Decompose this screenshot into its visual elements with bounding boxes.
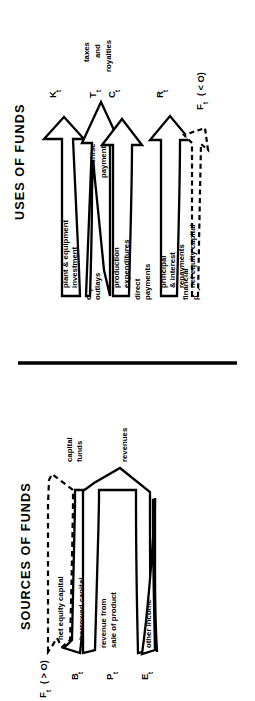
symbol-R-subscript: t <box>162 89 169 92</box>
figure-canvas: USES OF FUNDS plant & equipment investme… <box>0 0 255 701</box>
symbol-Kt: K t <box>47 89 62 98</box>
symbol-C-subscript: t <box>114 89 121 92</box>
symbol-E-subscript: t <box>147 671 154 674</box>
label-principal: principal <box>159 256 168 289</box>
label-and: and <box>93 44 102 58</box>
sources-title: SOURCES OF FUNDS <box>19 482 33 630</box>
panel-uses: USES OF FUNDS plant & equipment investme… <box>13 39 209 300</box>
label-investment: investment <box>70 246 79 288</box>
arrow-net-equity-out: net equity capital F t ( < O) <box>184 72 209 296</box>
label-net-equity-capital-out: net equity capital <box>188 224 197 288</box>
symbol-Rt: R t <box>154 89 169 98</box>
symbol-Tt: T t <box>87 89 102 98</box>
label-outlays: outlays <box>93 272 102 300</box>
symbol-F-subscript-in: t <box>45 689 52 692</box>
symbol-Ft-negative: F t ( < O) <box>194 72 209 110</box>
label-payments-direct: payments <box>143 263 152 300</box>
symbol-Et: E t <box>139 671 154 680</box>
label-revenue-from: revenue from <box>99 599 108 648</box>
label-plant-equipment: plant & equipment <box>61 220 70 288</box>
panel-sources: SOURCES OF FUNDS net equity capital capi… <box>19 427 157 698</box>
arrow-revenue-sale: revenue from sale of product revenues P … <box>83 427 151 680</box>
symbol-Bt: B t <box>69 671 84 680</box>
label-other-income: other income <box>144 598 153 648</box>
label-and-interest: & interest <box>168 252 177 288</box>
symbol-F-subscript-out: t <box>202 101 209 104</box>
symbol-T-subscript: t <box>95 89 102 92</box>
symbol-Ct: C t <box>106 89 121 98</box>
label-capital-funds-1: capital <box>65 437 74 462</box>
label-franchise: franchise <box>88 143 97 178</box>
symbol-K-subscript: t <box>55 89 62 92</box>
label-direct: direct <box>133 278 142 300</box>
arrow-edge-other-income <box>155 498 157 652</box>
label-net-equity-capital-in: net equity capital <box>56 576 65 640</box>
label-capital-funds-2: funds <box>75 440 84 462</box>
symbol-B-subscript: t <box>77 671 84 674</box>
label-taxes: taxes <box>82 41 91 62</box>
symbol-Ft-positive: F t ( > O) <box>37 660 52 698</box>
label-royalties: royalties <box>104 39 113 72</box>
label-production: production <box>112 247 121 288</box>
uses-title: USES OF FUNDS <box>13 104 27 220</box>
label-sale-of-product: sale of product <box>109 592 118 648</box>
symbol-Pt: P t <box>104 671 119 680</box>
label-payments-franchise: payments <box>99 141 108 178</box>
label-revenues: revenues <box>120 427 129 462</box>
label-expenditures: expenditures <box>122 239 131 288</box>
symbol-F-note-out: ( < O) <box>196 72 206 96</box>
symbol-F-note-in: ( > O) <box>39 660 49 684</box>
flow-diagram: USES OF FUNDS plant & equipment investme… <box>0 0 255 701</box>
symbol-P-subscript: t <box>112 671 119 674</box>
